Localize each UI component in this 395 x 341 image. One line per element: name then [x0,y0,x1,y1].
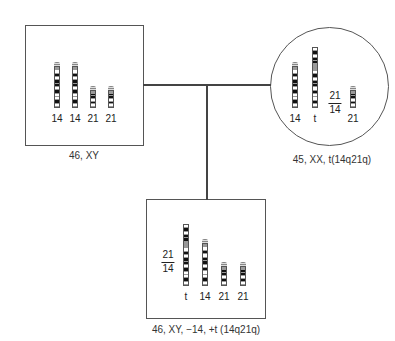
chromosome-21 [108,90,114,108]
fraction-denominator: 14 [161,263,174,275]
translocation-fraction: 21 14 [328,91,341,115]
father-karyotype: 46, XY [69,151,99,161]
chromosome-label: 21 [347,114,358,124]
father-box [25,25,144,146]
fraction-denominator: 14 [328,104,341,116]
chromosome-14 [292,66,298,108]
descent-line [206,84,208,200]
fraction-numerator: 21 [328,91,341,104]
chromosome-label: 14 [51,114,62,124]
translocation-chromosome [183,224,189,286]
chromosome-21 [90,90,96,108]
chromosome-label: 21 [87,114,98,124]
child-karyotype: 46, XY, −14, +t (14q21q) [152,325,260,335]
mother-karyotype: 45, XX, t(14q21q) [293,155,371,165]
chromosome-14 [72,66,78,108]
chromosome-label: 14 [199,292,210,302]
chromosome-label: 21 [105,114,116,124]
fraction-numerator: 21 [161,250,174,263]
chromosome-label: 14 [289,114,300,124]
chromosome-21 [240,266,246,286]
chromosome-label: 14 [69,114,80,124]
translocation-fraction: 21 14 [161,250,174,274]
chromosome-label: 21 [218,292,229,302]
chromosome-21 [350,90,356,108]
chromosome-label: 21 [237,292,248,302]
translocation-chromosome [312,47,318,108]
mother-circle [270,27,389,146]
chromosome-label: t [314,114,317,124]
chromosome-label: t [185,292,188,302]
chromosome-14 [202,243,208,286]
chromosome-21 [221,266,227,286]
chromosome-14 [54,66,60,108]
